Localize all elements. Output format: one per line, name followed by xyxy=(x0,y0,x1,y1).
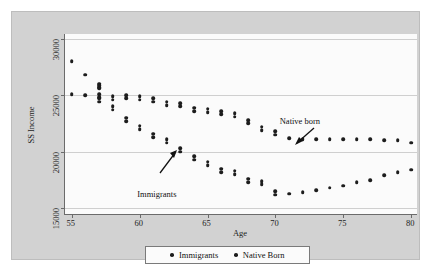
annotation-arrow-native-born xyxy=(292,126,332,152)
data-point xyxy=(409,141,413,145)
data-point xyxy=(260,183,264,187)
data-point xyxy=(396,139,400,143)
data-point xyxy=(70,59,74,63)
data-point xyxy=(84,93,88,97)
legend-marker-icon xyxy=(234,253,238,257)
data-point xyxy=(287,192,291,196)
data-point xyxy=(246,122,250,126)
x-axis-tick-label: 75 xyxy=(338,218,347,228)
data-point xyxy=(151,100,155,104)
data-point xyxy=(355,137,359,141)
data-point xyxy=(70,92,74,96)
legend-marker-icon xyxy=(170,253,174,257)
data-point xyxy=(206,163,210,167)
data-point xyxy=(219,170,223,174)
data-point xyxy=(192,109,196,113)
data-point xyxy=(138,98,142,102)
data-point xyxy=(355,180,359,184)
data-point xyxy=(342,137,346,141)
y-axis-tick-label: 30000 xyxy=(18,34,58,44)
chart-frame: 15000200002500030000 556065707580 SS Inc… xyxy=(11,11,420,260)
y-axis-title: SS Income xyxy=(26,106,36,143)
gridline xyxy=(65,39,417,40)
y-axis-tick-label-text: 30000 xyxy=(51,39,61,60)
x-axis-tick-label: 80 xyxy=(406,218,415,228)
data-point xyxy=(111,108,115,112)
chart-screenshot: 15000200002500030000 556065707580 SS Inc… xyxy=(0,0,429,270)
data-point xyxy=(314,188,318,192)
data-point xyxy=(97,100,101,104)
y-axis-tick xyxy=(61,95,65,96)
legend-item-immigrants[interactable]: Immigrants xyxy=(170,250,218,260)
gridline xyxy=(65,152,417,153)
data-point xyxy=(124,119,128,123)
data-point xyxy=(287,136,291,140)
data-point xyxy=(382,139,386,143)
chart-legend[interactable]: Immigrants Native Born xyxy=(145,246,310,264)
legend-label: Native Born xyxy=(243,250,285,260)
y-axis-tick-label: 20000 xyxy=(18,147,58,157)
data-point xyxy=(233,115,237,119)
y-axis-tick xyxy=(61,208,65,209)
y-axis-tick-label: 15000 xyxy=(18,203,58,213)
x-axis-tick-label: 55 xyxy=(67,218,76,228)
data-point xyxy=(151,135,155,139)
data-point xyxy=(369,178,373,182)
data-point xyxy=(138,127,142,131)
data-point xyxy=(124,97,128,101)
x-axis-tick-label: 60 xyxy=(134,218,143,228)
plot-area xyxy=(64,34,417,215)
legend-item-native-born[interactable]: Native Born xyxy=(234,250,284,260)
data-point xyxy=(382,174,386,178)
data-point xyxy=(206,110,210,114)
data-point xyxy=(328,186,332,190)
data-point xyxy=(111,98,115,102)
data-point xyxy=(409,168,413,172)
data-point xyxy=(165,103,169,107)
y-axis-tick xyxy=(61,39,65,40)
x-axis-tick-label: 70 xyxy=(270,218,279,228)
data-point xyxy=(396,170,400,174)
data-point xyxy=(260,128,264,132)
gridline xyxy=(65,208,417,209)
y-axis-tick-label-text: 25000 xyxy=(51,95,61,116)
data-point xyxy=(84,73,88,77)
y-axis-tick-label: 25000 xyxy=(18,90,58,100)
legend-label: Immigrants xyxy=(179,250,218,260)
data-point xyxy=(192,158,196,162)
data-point xyxy=(369,137,373,141)
data-point xyxy=(97,87,101,91)
y-axis-tick-label-text: 15000 xyxy=(51,208,61,229)
gridline xyxy=(65,95,417,96)
annotation-arrow-immigrants xyxy=(158,148,192,178)
data-point xyxy=(219,113,223,117)
y-axis-tick xyxy=(61,152,65,153)
data-point xyxy=(165,141,169,145)
data-point xyxy=(342,184,346,188)
data-point xyxy=(179,105,183,109)
data-point xyxy=(301,191,305,195)
data-point xyxy=(274,133,278,137)
data-point xyxy=(246,180,250,184)
x-axis-title: Age xyxy=(233,228,247,238)
x-axis-tick-label: 65 xyxy=(202,218,211,228)
y-axis-tick-label-text: 20000 xyxy=(51,152,61,173)
annotation-immigrants: Immigrants xyxy=(137,189,176,199)
data-point xyxy=(233,172,237,176)
data-point xyxy=(274,193,278,197)
